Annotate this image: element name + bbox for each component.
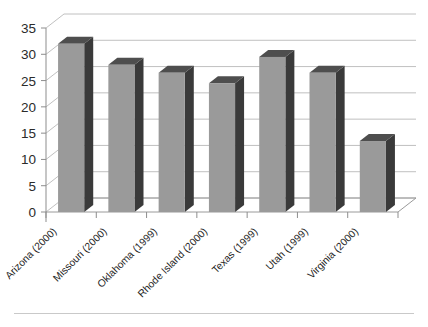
bar-column [259,50,294,212]
bar-front-face [159,73,185,212]
bar-side-face [336,66,345,212]
bar-column [58,37,93,212]
y-axis-tick-label: 5 [28,179,36,194]
bar-side-face [285,50,294,212]
bar-front-face [209,83,235,212]
bar-side-face [84,37,93,212]
bar-front-face [108,65,134,212]
y-axis-tick-label: 0 [28,205,36,220]
y-axis-tick-label: 35 [21,21,36,36]
bar-side-face [235,76,244,212]
bar-chart: 05101520253035 Arizona (2000)Missouri (2… [0,0,428,327]
bar-column [108,58,143,212]
bar-column [209,76,244,212]
bar-front-face [360,141,386,212]
bar-column [309,66,344,212]
chart-canvas: 05101520253035 Arizona (2000)Missouri (2… [0,0,428,327]
y-axis-tick-label: 10 [21,152,36,167]
y-axis-tick-label: 30 [21,47,36,62]
y-axis-tick-label: 20 [21,100,36,115]
y-axis-tick-label: 25 [21,74,36,89]
bar-front-face [259,57,285,212]
bar-front-face [309,73,335,212]
bar-front-face [58,44,84,212]
bar-side-face [185,66,194,212]
bar-column [360,134,395,212]
bar-side-face [135,58,144,212]
bar-side-face [386,134,395,212]
bar-column [159,66,194,212]
y-axis-tick-label: 15 [21,126,36,141]
